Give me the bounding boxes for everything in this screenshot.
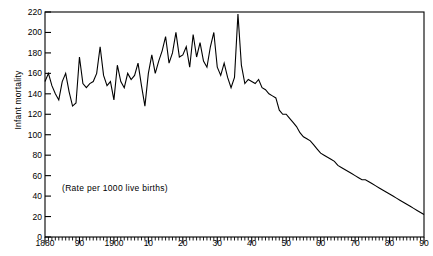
plot-area [0, 0, 433, 256]
x-axis-ticks [45, 237, 424, 244]
data-series-group [45, 14, 424, 214]
chart-container: Infant mortality 02040608010012014016018… [0, 0, 433, 256]
plot-frame [45, 12, 424, 237]
data-line [45, 14, 424, 214]
y-axis-ticks [45, 12, 51, 237]
plot-border [45, 12, 424, 237]
